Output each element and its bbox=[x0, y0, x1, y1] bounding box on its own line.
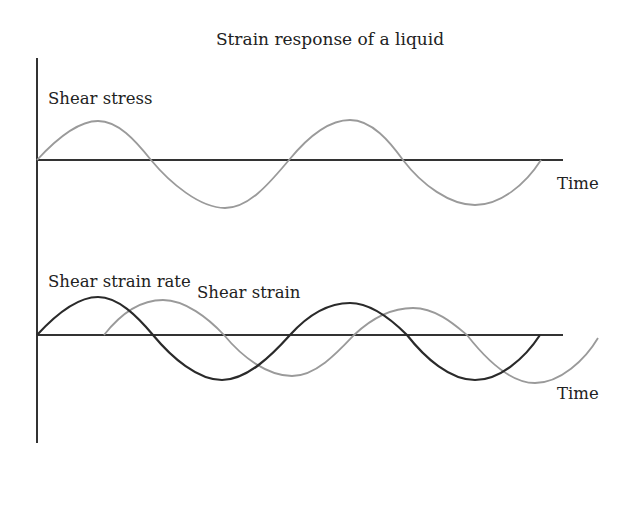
bottom-time-label: Time bbox=[557, 384, 599, 403]
shear-strain-curve bbox=[104, 300, 598, 383]
top-time-label: Time bbox=[557, 174, 599, 193]
shear-strain-rate-label: Shear strain rate bbox=[48, 272, 191, 291]
shear-stress-curve bbox=[37, 120, 541, 208]
strain-response-diagram: Strain response of a liquid Shear stress… bbox=[0, 0, 633, 511]
diagram-title: Strain response of a liquid bbox=[216, 29, 444, 49]
shear-strain-label: Shear strain bbox=[197, 283, 301, 302]
shear-strain-rate-curve bbox=[37, 297, 540, 380]
shear-stress-label: Shear stress bbox=[48, 89, 152, 108]
